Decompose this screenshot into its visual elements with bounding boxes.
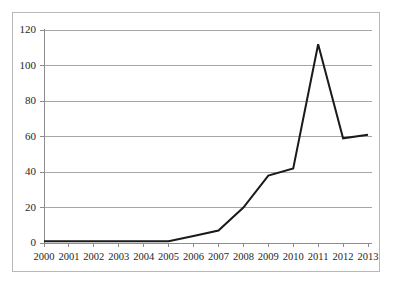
x-axis-tick-label: 2013 [356,252,381,263]
x-axis-tick-label: 2009 [256,252,281,263]
x-axis-tick-label: 2008 [231,252,256,263]
x-axis-tick-label: 2005 [156,252,181,263]
x-axis-tick-label: 2010 [281,252,306,263]
chart-frame [12,12,380,272]
y-axis-tick-label: 80 [0,95,36,106]
x-axis-tick-label: 2000 [32,252,57,263]
x-axis-tick-label: 2012 [331,252,356,263]
x-axis-tick-label: 2004 [131,252,156,263]
x-axis-tick-label: 2007 [206,252,231,263]
x-axis-tick-label: 2003 [106,252,131,263]
x-axis-tick-label: 2001 [56,252,81,263]
chart-figure: 020406080100120 200020012002200320042005… [0,0,393,285]
y-axis-tick-label: 60 [0,131,36,142]
y-axis-tick-label: 20 [0,202,36,213]
y-axis-tick-label: 40 [0,166,36,177]
x-axis-tick-label: 2006 [181,252,206,263]
x-axis-tick-label: 2002 [81,252,106,263]
y-axis-tick-label: 120 [0,24,36,35]
y-axis-tick-label: 100 [0,60,36,71]
y-axis-tick-label: 0 [0,237,36,248]
x-axis-tick-label: 2011 [306,252,331,263]
